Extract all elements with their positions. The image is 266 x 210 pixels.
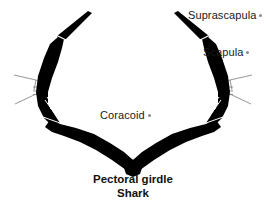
label-suprascapula: Suprascapula xyxy=(188,9,262,21)
left-scapula-shape xyxy=(36,37,64,126)
left-suprascapula-shape xyxy=(57,11,92,41)
right-coracoid-shape xyxy=(133,120,221,172)
left-coracoid-shape xyxy=(45,120,133,172)
shark-pectoral-girdle-figure: Suprascapula Scapula Coracoid Pectoral g… xyxy=(0,0,266,210)
label-coracoid-marker-dot xyxy=(148,114,151,117)
label-coracoid: Coracoid xyxy=(100,109,151,121)
caption-line-subject: Shark xyxy=(0,186,266,200)
label-scapula-marker-dot xyxy=(246,51,249,54)
label-suprascapula-text: Suprascapula xyxy=(188,9,256,21)
label-scapula: Scapula xyxy=(203,46,249,58)
caption-line-title: Pectoral girdle xyxy=(0,172,266,186)
label-suprascapula-marker-dot xyxy=(259,14,262,17)
figure-caption: Pectoral girdle Shark xyxy=(0,172,266,200)
label-scapula-text: Scapula xyxy=(203,46,243,58)
label-coracoid-text: Coracoid xyxy=(100,109,145,121)
